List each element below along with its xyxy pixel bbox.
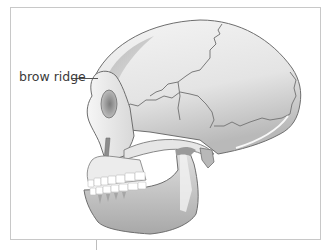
eye-orbit <box>101 90 117 118</box>
mastoid-process <box>200 148 214 168</box>
brow-ridge-label: brow ridge <box>19 69 86 84</box>
skull-illustration <box>0 0 329 250</box>
